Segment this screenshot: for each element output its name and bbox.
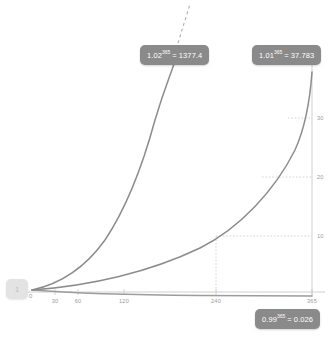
curve-1-01 bbox=[32, 72, 312, 290]
x-tick-label-365: 365 bbox=[307, 298, 317, 304]
annotation-1-02-exponent: 365 bbox=[162, 49, 170, 55]
x-tick-label-30: 30 bbox=[52, 298, 59, 304]
curve-1-02-extension bbox=[178, 4, 190, 43]
y-tick-label-30: 30 bbox=[317, 115, 324, 121]
curve-0-99 bbox=[32, 290, 312, 296]
y-tick-label-20: 20 bbox=[317, 174, 324, 180]
annotation-1-01-base: 1.01 bbox=[259, 51, 274, 60]
annotation-1-01: 1.01365=37.783 bbox=[252, 45, 321, 65]
chart-canvas: 1 0 30 60 120 240 365 10 20 30 1.02365=1… bbox=[0, 0, 333, 342]
y-tick-label-10: 10 bbox=[317, 233, 324, 239]
annotation-1-01-result: 37.783 bbox=[291, 51, 315, 60]
start-value-label: 1 bbox=[15, 285, 19, 294]
annotation-0-99-equals: = bbox=[287, 315, 291, 324]
x-tick-label-0: 0 bbox=[29, 293, 32, 299]
x-tick-label-60: 60 bbox=[75, 298, 82, 304]
annotation-0-99-exponent: 365 bbox=[277, 313, 285, 319]
annotation-1-02: 1.02365=1377.4 bbox=[140, 45, 209, 65]
annotation-1-02-equals: = bbox=[172, 51, 176, 60]
annotation-0-99-base: 0.99 bbox=[262, 315, 277, 324]
x-tick-label-240: 240 bbox=[211, 298, 221, 304]
annotation-1-01-equals: = bbox=[284, 51, 288, 60]
annotation-0-99: 0.99365=0.026 bbox=[255, 309, 320, 329]
curve-1-02 bbox=[32, 64, 174, 290]
annotation-1-02-result: 1377.4 bbox=[179, 51, 203, 60]
annotation-1-01-exponent: 365 bbox=[274, 49, 282, 55]
x-tick-label-120: 120 bbox=[119, 298, 129, 304]
annotation-0-99-result: 0.026 bbox=[294, 315, 313, 324]
annotation-1-02-base: 1.02 bbox=[147, 51, 162, 60]
start-value-badge: 1 bbox=[6, 279, 28, 299]
